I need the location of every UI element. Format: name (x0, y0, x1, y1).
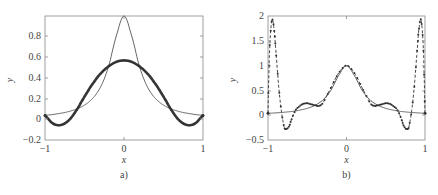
data-marker (362, 89, 364, 91)
data-marker (403, 124, 405, 126)
data-marker (121, 60, 123, 62)
data-marker (395, 107, 397, 109)
data-marker (133, 62, 135, 64)
data-marker (415, 66, 417, 68)
y-tick-label: 0.2 (29, 93, 42, 104)
data-marker (186, 124, 188, 126)
data-marker (176, 117, 178, 119)
data-marker (103, 69, 105, 71)
data-marker (398, 112, 400, 114)
data-marker (145, 71, 147, 73)
y-tick-label: 2 (259, 10, 264, 21)
data-marker (422, 50, 424, 52)
data-marker (97, 75, 99, 77)
data-marker (418, 28, 420, 30)
data-marker (421, 23, 423, 25)
data-marker (413, 86, 415, 88)
data-marker (54, 124, 56, 126)
y-tick-label: 0.5 (252, 85, 265, 96)
figure-svg: −0.2 0 0.2 0.4 0.6 0.8 −1 0 1 x y a) (0, 0, 438, 195)
data-marker (149, 75, 151, 77)
data-marker (180, 121, 182, 123)
series-line (268, 19, 425, 129)
data-marker (105, 67, 107, 69)
data-marker (275, 54, 277, 56)
data-marker (166, 102, 168, 104)
data-marker (113, 62, 115, 64)
y-ticks-a: −0.2 0 0.2 0.4 0.6 0.8 (23, 30, 41, 145)
data-marker (131, 61, 133, 63)
y-tick-label: 0 (36, 113, 41, 124)
data-marker (274, 36, 276, 38)
data-marker (194, 123, 196, 125)
data-marker (420, 18, 422, 20)
tick-marks-b (268, 16, 425, 140)
data-marker (288, 126, 290, 128)
data-marker (342, 67, 344, 69)
x-tick-label: −1 (40, 143, 51, 154)
series-line (45, 60, 203, 125)
y-axis-label-b: y (227, 77, 238, 83)
data-marker (292, 115, 294, 117)
y-tick-label: 1 (259, 60, 264, 71)
data-marker (327, 93, 329, 95)
data-marker (277, 73, 279, 75)
data-marker (350, 68, 352, 70)
data-marker (93, 80, 95, 82)
data-marker (188, 124, 190, 126)
data-marker (324, 99, 326, 101)
endpoint-marker (44, 114, 47, 117)
data-marker (410, 113, 412, 115)
y-tick-label: −0.5 (246, 134, 264, 145)
panel-a: −0.2 0 0.2 0.4 0.6 0.8 −1 0 1 x y a) (4, 16, 206, 181)
data-marker (295, 109, 297, 111)
data-marker (107, 66, 109, 68)
plot-frame-b (268, 16, 425, 140)
data-marker (80, 102, 82, 104)
data-marker (190, 124, 192, 126)
data-marker (172, 112, 174, 114)
data-marker (88, 89, 90, 91)
panel-label-b: b) (342, 169, 350, 181)
data-marker (339, 71, 341, 73)
data-marker (353, 72, 355, 74)
series-line (268, 66, 425, 114)
x-tick-label: −1 (263, 143, 274, 154)
x-ticks-b: −1 0 1 (263, 143, 428, 154)
data-marker (423, 74, 425, 76)
data-marker (147, 73, 149, 75)
curves-a (44, 16, 205, 126)
data-marker (273, 23, 275, 25)
data-marker (271, 21, 273, 23)
data-marker (151, 78, 153, 80)
data-marker (129, 60, 131, 62)
data-marker (157, 86, 159, 88)
x-axis-label-a: x (121, 154, 127, 165)
data-marker (99, 73, 101, 75)
data-marker (400, 116, 402, 118)
x-tick-label: 0 (122, 143, 127, 154)
series-line (45, 16, 203, 115)
data-marker (91, 83, 93, 85)
data-marker (82, 99, 84, 101)
data-marker (409, 122, 411, 124)
data-marker (127, 60, 129, 62)
data-marker (294, 111, 296, 113)
data-marker (333, 81, 335, 83)
data-marker (168, 106, 170, 108)
data-marker (416, 50, 418, 52)
data-marker (417, 40, 419, 42)
data-marker (278, 92, 280, 94)
data-marker (70, 117, 72, 119)
figure: −0.2 0 0.2 0.4 0.6 0.8 −1 0 1 x y a) (0, 0, 438, 195)
data-marker (397, 109, 399, 111)
y-tick-label: −0.2 (23, 134, 41, 145)
curves-b (267, 18, 427, 130)
data-marker (170, 109, 172, 111)
data-marker (125, 60, 127, 62)
data-marker (291, 118, 293, 120)
data-marker (101, 71, 103, 73)
y-tick-label: 0 (259, 109, 264, 120)
data-marker (143, 69, 145, 71)
data-marker (86, 92, 88, 94)
